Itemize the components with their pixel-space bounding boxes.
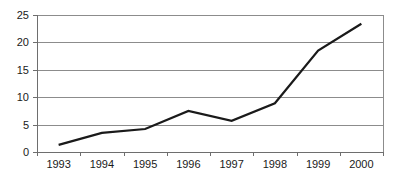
y-axis-tick-label: 25 xyxy=(17,9,29,21)
x-axis-tick-label: 1995 xyxy=(133,158,157,170)
y-axis-tick-label: 10 xyxy=(17,91,29,103)
x-axis-tick-label: 1993 xyxy=(46,158,70,170)
y-axis-tick-label: 15 xyxy=(17,64,29,76)
x-axis-tick-label: 2000 xyxy=(349,158,373,170)
x-axis-tick-label: 1997 xyxy=(219,158,243,170)
x-axis-tick-label: 1996 xyxy=(176,158,200,170)
y-axis-tick-label: 0 xyxy=(23,146,29,158)
chart-canvas: 0510152025199319941995199619971998199920… xyxy=(0,0,397,185)
x-axis-tick-label: 1994 xyxy=(90,158,114,170)
data-series-line xyxy=(59,24,362,145)
y-axis-tick-label: 20 xyxy=(17,36,29,48)
y-axis-tick-label: 5 xyxy=(23,119,29,131)
line-chart: 0510152025199319941995199619971998199920… xyxy=(0,0,397,185)
x-axis-tick-label: 1999 xyxy=(306,158,330,170)
x-axis-tick-label: 1998 xyxy=(263,158,287,170)
